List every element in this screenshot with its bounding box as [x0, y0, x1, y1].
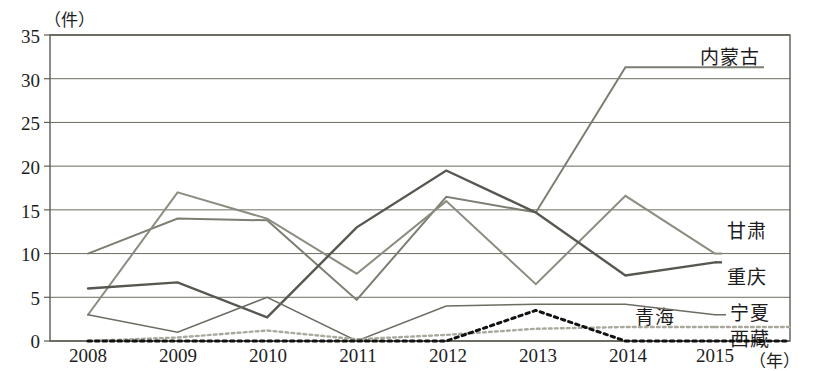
series-line-3 [88, 297, 715, 341]
chart-root: （件） 35 30 25 20 15 10 5 0 2008 2009 2010… [0, 0, 814, 371]
series-line-0 [88, 67, 715, 300]
chart-plot-area [0, 0, 814, 371]
series-line-2 [88, 171, 715, 318]
